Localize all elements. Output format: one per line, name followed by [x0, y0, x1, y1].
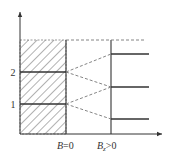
level-2-label: 2 — [11, 67, 16, 78]
hatched-region — [20, 40, 66, 134]
b-zero-label: B=0 — [57, 140, 74, 151]
connector-1-up — [66, 87, 111, 104]
energy-level-diagram: 2 1 B=0 Bz>0 — [0, 0, 174, 157]
connector-2-down — [66, 72, 111, 87]
b-positive-label: Bz>0 — [97, 140, 116, 153]
connector-2-up — [66, 54, 111, 72]
connector-1-down — [66, 104, 111, 119]
level-1-label: 1 — [11, 99, 16, 110]
